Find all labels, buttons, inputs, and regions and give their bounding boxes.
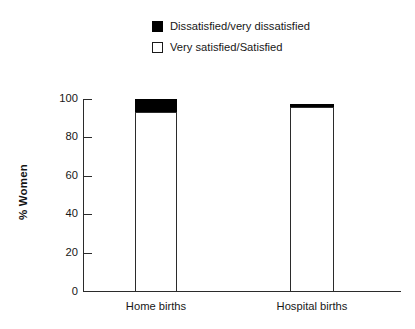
y-axis-tick-label: 20 — [44, 247, 78, 258]
y-axis-tick — [84, 99, 92, 100]
y-axis-tick — [84, 253, 92, 254]
y-axis-line — [83, 99, 84, 292]
y-axis-tick — [84, 176, 92, 177]
y-axis-tick — [84, 137, 92, 138]
y-axis-tick-label-wrap: 80 — [40, 131, 78, 142]
y-axis-tick-label: 80 — [44, 131, 78, 142]
y-axis-tick-label-wrap: 0 — [40, 286, 78, 297]
bar-chart-plot: 100 80 60 40 20 0 % Women Home births Ho… — [0, 0, 415, 329]
bar-home-births-satisfied — [135, 112, 177, 292]
x-axis-label-hospital-births: Hospital births — [257, 300, 367, 313]
y-axis-tick-label-wrap: 20 — [40, 247, 78, 258]
bar-hospital-births-satisfied — [290, 107, 334, 292]
y-axis-tick — [84, 214, 92, 215]
y-axis-tick-label-wrap: 60 — [40, 170, 78, 181]
y-axis-tick-label: 60 — [44, 170, 78, 181]
y-axis-tick-label: 100 — [44, 93, 78, 104]
y-axis-tick-label-wrap: 100 — [40, 93, 78, 104]
x-axis-label-home-births: Home births — [106, 300, 206, 313]
x-axis-line — [83, 291, 401, 292]
y-axis-tick-label: 0 — [44, 286, 78, 297]
bar-home-births-dissatisfied — [135, 99, 177, 113]
y-axis-title: % Women — [17, 157, 29, 227]
y-axis-tick-label-wrap: 40 — [40, 208, 78, 219]
y-axis-tick-label: 40 — [44, 208, 78, 219]
